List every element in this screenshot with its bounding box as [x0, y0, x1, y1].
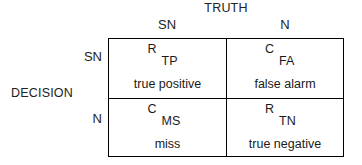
cell-abbreviation: FA	[279, 54, 294, 68]
cell-code-group: C MS	[109, 102, 226, 136]
cell-code-group: R TN	[227, 102, 343, 136]
cell-code-letter: C	[148, 102, 157, 116]
cell-phrase: miss	[109, 137, 226, 151]
matrix-cell-false-alarm: C FA false alarm	[226, 39, 343, 98]
truth-axis-label: TRUTH	[108, 1, 344, 15]
decision-axis-label: DECISION	[6, 86, 78, 100]
cell-phrase: true positive	[109, 77, 226, 91]
matrix-cell-true-negative: R TN true negative	[226, 98, 343, 157]
signal-detection-matrix-figure: TRUTH SN N DECISION SN N R TP true posit…	[0, 0, 362, 165]
cell-abbreviation: MS	[162, 114, 181, 128]
cell-abbreviation: TN	[279, 114, 296, 128]
cell-code-letter: C	[265, 42, 274, 56]
cell-code-group: R TP	[109, 42, 226, 76]
cell-phrase: false alarm	[227, 77, 343, 91]
cell-phrase: true negative	[227, 137, 343, 151]
matrix-cell-true-positive: R TP true positive	[109, 39, 226, 98]
truth-column-header-n: N	[226, 17, 344, 32]
cell-code-letter: R	[148, 42, 157, 56]
decision-row-header-sn: SN	[76, 49, 102, 64]
cell-code-group: C FA	[227, 42, 343, 76]
cell-code-letter: R	[265, 102, 274, 116]
cell-abbreviation: TP	[162, 54, 178, 68]
truth-column-header-sn: SN	[108, 17, 226, 32]
matrix-cell-miss: C MS miss	[109, 98, 226, 157]
decision-row-header-n: N	[76, 111, 102, 126]
confusion-matrix: R TP true positive C FA false alarm C MS…	[108, 38, 344, 157]
